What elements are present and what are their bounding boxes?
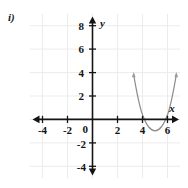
x-axis-label: x — [168, 102, 175, 114]
y-tick-label-6: 6 — [79, 43, 85, 55]
problem-label: i) — [8, 11, 15, 23]
x-tick-label-4: 4 — [140, 124, 146, 136]
x-tick-label-neg2: -2 — [63, 124, 73, 136]
origin-label: 0 — [83, 123, 89, 135]
figure-container: i) — [0, 0, 188, 188]
x-tick-label-neg4: -4 — [38, 124, 48, 136]
x-tick-label-6: 6 — [165, 124, 171, 136]
y-tick-label-4: 4 — [79, 67, 85, 79]
y-tick-label-2: 2 — [79, 90, 85, 102]
y-axis-label: y — [98, 17, 105, 29]
y-tick-label-neg4: -4 — [77, 161, 87, 173]
y-tick-label-8: 8 — [79, 20, 85, 32]
x-tick-label-2: 2 — [115, 124, 121, 136]
graph-area: 8 6 4 2 -2 -4 0 -4 -2 2 4 6 y x — [30, 14, 180, 178]
coordinate-plane: 8 6 4 2 -2 -4 0 -4 -2 2 4 6 y x — [30, 14, 180, 178]
y-tick-label-neg2: -2 — [77, 138, 87, 150]
